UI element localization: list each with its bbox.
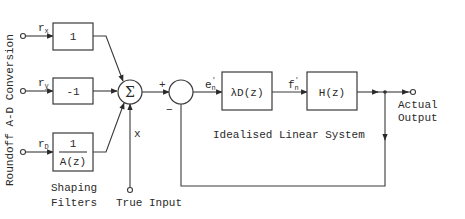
comparator-minus: − xyxy=(166,104,173,116)
output-terminal xyxy=(411,90,416,95)
wire-feedback-loop xyxy=(181,104,385,186)
label-ry: ry xyxy=(38,77,49,90)
input-terminal-rd xyxy=(21,150,26,155)
controller-label: λD(z) xyxy=(230,87,263,99)
caption-filters: Filters xyxy=(51,197,97,209)
wire-box3-to-sum xyxy=(93,103,124,152)
filter-box-inv-a-denominator: A(z) xyxy=(60,156,86,168)
comparator-plus: + xyxy=(159,79,166,91)
label-rx: rx xyxy=(38,22,49,35)
caption-actual: Actual xyxy=(398,99,438,111)
filter-box-neg1-label: -1 xyxy=(66,86,80,98)
filter-box-1-label: 1 xyxy=(70,31,77,43)
wire-box1-to-sum xyxy=(93,36,123,81)
comparator-junction xyxy=(169,80,193,104)
input-terminal-ry xyxy=(21,89,26,94)
sigma-symbol: Σ xyxy=(125,84,135,100)
label-error-signal: en' xyxy=(205,76,216,92)
caption-shaping: Shaping xyxy=(51,182,97,194)
label-rd: rD xyxy=(38,138,49,151)
filter-box-inv-a-numerator: 1 xyxy=(70,138,77,150)
input-terminal-rx xyxy=(21,34,26,39)
label-x: x xyxy=(134,128,141,140)
caption-true-input: True Input xyxy=(116,197,182,209)
plant-label: H(z) xyxy=(319,87,345,99)
block-diagram: Roundoff A-D Conversion rx ry rD 1 -1 1 … xyxy=(0,0,465,219)
caption-idealised-linear-system: Idealised Linear System xyxy=(213,129,365,141)
caption-output: Output xyxy=(398,112,438,124)
side-label-roundoff-ad-conversion: Roundoff A-D Conversion xyxy=(4,34,16,186)
true-input-terminal xyxy=(128,188,133,193)
label-controller-output: fn' xyxy=(288,76,299,92)
